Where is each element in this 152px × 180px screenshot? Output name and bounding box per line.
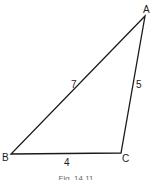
vertex-label-b: B <box>2 152 9 163</box>
vertex-label-a: A <box>143 4 150 15</box>
triangle-diagram: A B C 7 5 4 <box>0 0 152 180</box>
side-label-ac: 5 <box>136 79 142 90</box>
side-label-bc: 4 <box>64 157 70 168</box>
vertex-label-c: C <box>122 153 129 164</box>
figure-caption: Fig. 14.11 <box>0 174 152 180</box>
triangle-abc <box>11 16 145 154</box>
side-label-ab: 7 <box>71 79 77 90</box>
